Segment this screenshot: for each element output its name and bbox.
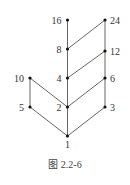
node-label-6: 6 [110, 73, 115, 84]
node-label-12: 12 [110, 46, 120, 57]
node-label-24: 24 [110, 15, 120, 26]
node-1 [66, 134, 69, 137]
node-24 [103, 18, 106, 21]
node-label-2: 2 [57, 102, 62, 113]
node-label-10: 10 [14, 73, 24, 84]
node-label-3: 3 [110, 102, 115, 113]
node-label-8: 8 [57, 44, 62, 55]
node-8 [66, 47, 69, 50]
node-label-16: 16 [52, 15, 62, 26]
node-3 [103, 105, 106, 108]
edge-1-3 [68, 107, 106, 136]
node-label-1: 1 [65, 139, 70, 150]
node-12 [103, 49, 106, 52]
edge-8-24 [68, 20, 106, 49]
edge-2-10 [30, 78, 68, 107]
node-6 [103, 76, 106, 79]
node-10 [28, 76, 31, 79]
node-2 [66, 105, 69, 108]
node-label-5: 5 [19, 102, 24, 113]
figure-caption: 图 2.2-6 [0, 156, 130, 171]
node-4 [66, 76, 69, 79]
edge-4-12 [68, 51, 106, 78]
node-label-4: 4 [57, 73, 62, 84]
edge-2-6 [68, 78, 106, 107]
node-16 [66, 18, 69, 21]
edge-1-5 [30, 107, 68, 136]
node-5 [28, 105, 31, 108]
